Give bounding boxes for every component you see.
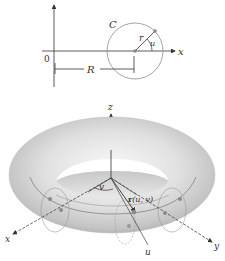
radius-label: r: [139, 33, 144, 43]
x-axis-3d-label: x: [5, 234, 10, 244]
point-left-outer: [48, 197, 52, 201]
point-right-inner: [163, 211, 167, 215]
torus-diagram: z x y v r(u, v) u: [5, 102, 220, 257]
circle-c-label: C: [109, 19, 117, 30]
circle-center-point: [133, 49, 137, 53]
position-vector-args: (u, v): [132, 195, 153, 204]
origin-label: 0: [44, 54, 50, 64]
cross-section-diagram: x 0 C r u R: [42, 5, 184, 87]
point-left-inner: [59, 208, 63, 212]
point-front: [132, 210, 136, 214]
u-axis-label: u: [145, 247, 151, 257]
y-axis-3d-label: y: [213, 241, 220, 251]
x-axis-label: x: [178, 46, 184, 57]
angle-u-label: u: [150, 39, 155, 48]
z-axis-label: z: [107, 102, 113, 112]
point-right-outer: [178, 197, 182, 201]
distance-r-label: R: [86, 64, 95, 75]
torus-parametrization-figure: x 0 C r u R z x y: [0, 0, 225, 261]
circle-edge-point: [153, 29, 157, 33]
point-front-lower: [127, 224, 131, 228]
position-vector-label: r(u, v): [128, 194, 153, 204]
angle-v-label: v: [99, 182, 104, 192]
